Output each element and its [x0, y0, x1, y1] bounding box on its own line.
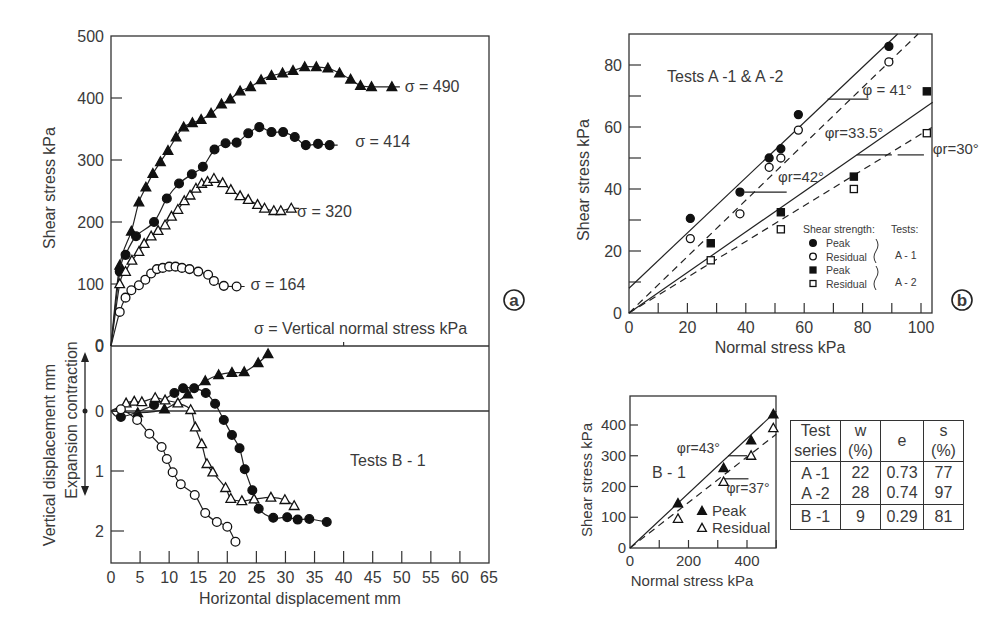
x-tick-label: 25 — [247, 569, 265, 586]
x-tick-label: 40 — [737, 319, 755, 336]
filled-triangle-marker — [719, 463, 728, 471]
cell-w: 2228 — [841, 462, 881, 505]
open-circle-marker — [115, 308, 124, 317]
x-tick-label: 40 — [335, 569, 353, 586]
open-square-marker — [923, 130, 930, 137]
filled-circle-marker — [170, 389, 179, 398]
open-circle-marker — [686, 235, 694, 243]
sigma-curve-label: σ = 320 — [297, 203, 352, 220]
filled-circle-marker — [219, 416, 228, 425]
y-tick-label: 100 — [601, 508, 626, 525]
filled-triangle-marker — [387, 82, 397, 91]
panel-label-b: b — [952, 290, 972, 310]
filled-circle-marker — [810, 240, 817, 247]
x-tick-label: 50 — [393, 569, 411, 586]
filled-triangle-marker — [225, 94, 235, 103]
filled-circle-marker — [211, 399, 220, 408]
table-row: B -1 9 0.29 81 — [791, 505, 964, 530]
filled-circle-marker — [279, 128, 288, 137]
svg-text:a: a — [509, 291, 519, 310]
x-tick-label: 55 — [422, 569, 440, 586]
filled-circle-marker — [248, 486, 257, 495]
open-circle-marker — [810, 253, 817, 260]
filled-circle-marker — [244, 129, 253, 138]
figure-svg: 0100200300400500σ = 490σ = 414σ = 320σ =… — [0, 0, 1008, 626]
panel-b1-x-label: Normal stress kPa — [631, 572, 754, 589]
filled-circle-marker — [765, 154, 773, 162]
legend-item: Residual — [826, 278, 867, 290]
y-tick-label: 0 — [613, 305, 622, 322]
legend-item: Residual — [712, 519, 770, 536]
x-tick-label: 0 — [625, 319, 634, 336]
open-triangle-marker — [115, 279, 125, 288]
open-circle-marker — [232, 282, 241, 291]
y-tick-label: 100 — [77, 276, 104, 293]
open-circle-marker — [185, 265, 194, 274]
filled-triangle-marker — [746, 436, 755, 444]
x-tick-label: 400 — [734, 552, 759, 569]
y-tick-label: 1 — [95, 463, 104, 480]
filled-square-marker — [707, 240, 714, 247]
tests-b1-annotation: Tests B - 1 — [350, 452, 426, 469]
filled-triangle-marker — [239, 367, 249, 376]
legend-group: A - 1 — [895, 249, 917, 261]
y-tick-label: 0 — [95, 337, 104, 354]
filled-triangle-marker — [227, 368, 237, 377]
filled-circle-marker — [190, 384, 199, 393]
sigma-curve-label: σ = 414 — [355, 133, 410, 150]
y-tick-label: 40 — [604, 181, 622, 198]
panel-b-x-label: Normal stress kPa — [715, 339, 846, 356]
y-tick-label: 20 — [604, 243, 622, 260]
filled-circle-marker — [235, 444, 244, 453]
open-circle-marker — [133, 416, 142, 425]
open-circle-marker — [162, 455, 171, 464]
x-tick-label: 35 — [306, 569, 324, 586]
open-circle-marker — [231, 537, 240, 546]
open-triangle-marker — [235, 191, 245, 200]
x-tick-label: 45 — [364, 569, 382, 586]
filled-circle-marker — [150, 218, 159, 227]
open-circle-marker — [194, 267, 203, 276]
filled-triangle-marker — [263, 349, 273, 358]
filled-triangle-marker — [171, 132, 181, 141]
y-tick-label: 400 — [77, 90, 104, 107]
filled-circle-marker — [201, 389, 210, 398]
x-tick-label: 200 — [676, 552, 701, 569]
table-header-row: Testseries w(%) e s(%) — [791, 421, 964, 462]
x-tick-label: 15 — [189, 569, 207, 586]
panel-b1-y-label: Shear stress kPa — [578, 422, 595, 537]
x-tick-label: 60 — [795, 319, 813, 336]
cell-e: 0.29 — [881, 505, 924, 530]
x-tick-label: 0 — [626, 552, 634, 569]
filled-circle-marker — [162, 194, 171, 203]
cell-series: B -1 — [791, 505, 841, 530]
soil-properties-table: Testseries w(%) e s(%) A -1A -2 2228 0.7… — [790, 420, 964, 530]
y-tick-label: 60 — [604, 119, 622, 136]
cell-e: 0.730.74 — [881, 462, 924, 505]
filled-triangle-marker — [163, 146, 173, 155]
panel-b-title: Tests A -1 & A -2 — [667, 68, 784, 85]
filled-square-marker — [777, 209, 784, 216]
friction-angle-label: φr=37° — [727, 480, 770, 496]
header-test-series: Testseries — [791, 421, 841, 462]
open-circle-marker — [176, 480, 185, 489]
y-tick-label: 80 — [604, 57, 622, 74]
strength-envelope-plot-b1: 02004000100200300400φr=43°φr=37°PeakResi… — [601, 409, 778, 569]
open-circle-marker — [145, 429, 154, 438]
open-circle-marker — [121, 293, 130, 302]
open-triangle-marker — [746, 451, 755, 459]
panel-b1: 02004000100200300400φr=43°φr=37°PeakResi… — [578, 396, 778, 589]
open-triangle-marker — [673, 514, 682, 522]
filled-triangle-marker — [200, 376, 210, 385]
open-triangle-marker — [209, 174, 219, 183]
open-triangle-marker — [226, 494, 236, 503]
open-circle-marker — [765, 163, 773, 171]
filled-triangle-marker — [156, 157, 166, 166]
open-square-marker — [850, 185, 857, 192]
legend-group: A - 2 — [895, 276, 917, 288]
legend-header: Shear strength: — [803, 223, 875, 235]
filled-triangle-marker — [253, 358, 263, 367]
filled-circle-marker — [187, 170, 196, 179]
filled-circle-marker — [290, 133, 299, 142]
open-circle-marker — [777, 154, 785, 162]
